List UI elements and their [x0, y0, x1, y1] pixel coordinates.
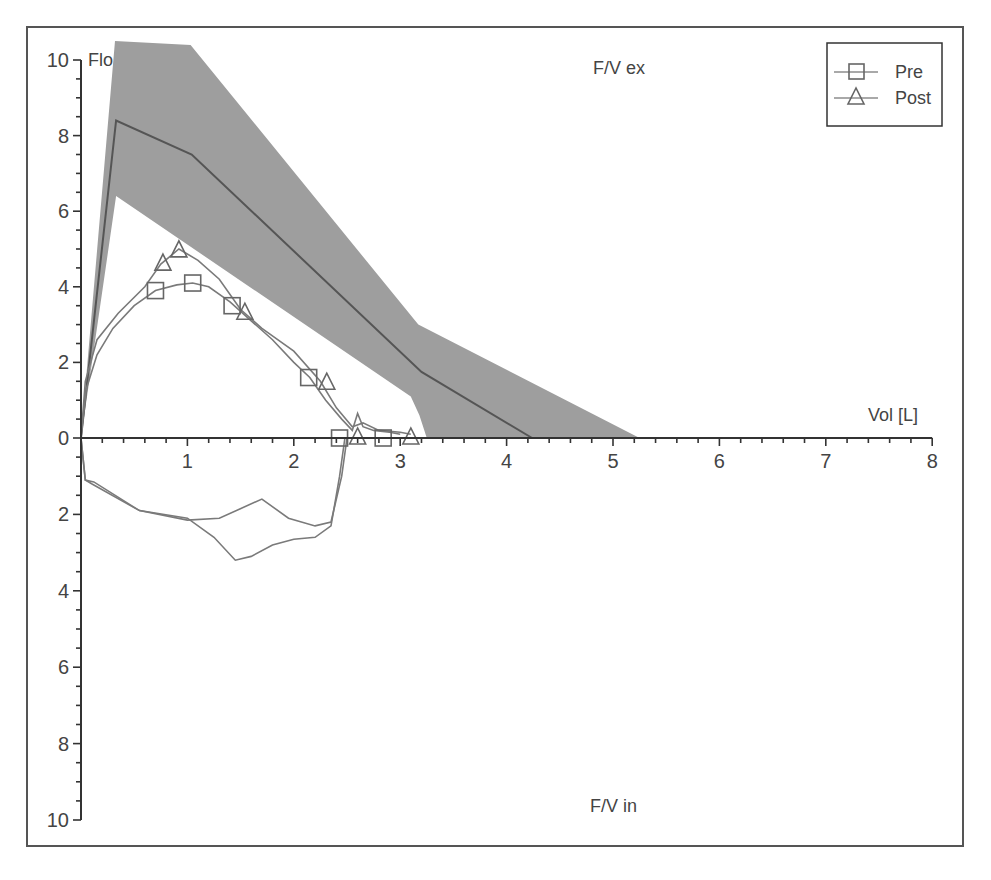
y-tick-label-insp: 6 [58, 656, 69, 678]
post-triangle-marker [403, 428, 419, 444]
flow-volume-chart: 024681024681012345678 Flo F/V ex F/V in … [0, 0, 991, 880]
y-tick-label-insp: 10 [47, 809, 69, 831]
y-tick-label-exp: 8 [58, 125, 69, 147]
x-tick-label: 2 [288, 450, 299, 472]
x-axis-label: Vol [L] [868, 405, 918, 425]
x-tick-label: 1 [182, 450, 193, 472]
chart-title-inspiratory: F/V in [590, 796, 637, 816]
y-axis-label: Flo [88, 50, 113, 70]
y-tick-label-insp: 8 [58, 733, 69, 755]
x-tick-label: 3 [395, 450, 406, 472]
y-tick-label-insp: 4 [58, 580, 69, 602]
y-tick-label-exp: 6 [58, 200, 69, 222]
y-tick-label-exp: 0 [58, 427, 69, 449]
x-tick-label: 6 [714, 450, 725, 472]
y-tick-label-insp: 2 [58, 503, 69, 525]
x-tick-label: 4 [501, 450, 512, 472]
x-tick-label: 5 [607, 450, 618, 472]
post-triangle-marker [237, 303, 253, 319]
x-tick-label: 7 [820, 450, 831, 472]
legend: Pre Post [827, 43, 942, 126]
legend-label-pre: Pre [895, 62, 923, 82]
chart-title-expiratory: F/V ex [593, 58, 645, 78]
y-tick-label-exp: 4 [58, 276, 69, 298]
legend-box [827, 43, 942, 126]
post-inspiratory-curve [81, 438, 347, 526]
legend-label-post: Post [895, 88, 931, 108]
x-tick-label: 8 [927, 450, 938, 472]
y-tick-label-exp: 10 [47, 49, 69, 71]
normal-range-band [81, 41, 640, 438]
y-tick-label-exp: 2 [58, 351, 69, 373]
normal-range-band-layer [81, 41, 640, 438]
